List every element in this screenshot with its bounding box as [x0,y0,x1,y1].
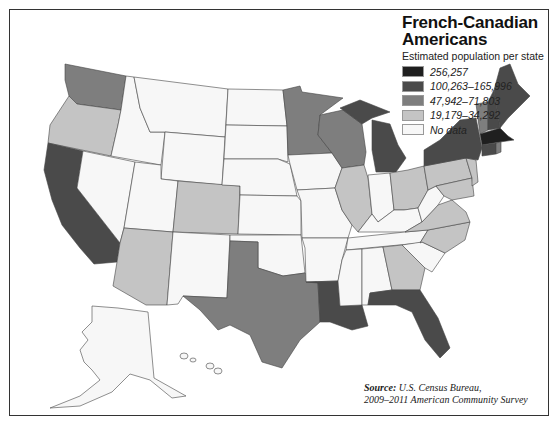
source-line2: 2009–2011 American Community Survey [364,394,528,406]
state-alaska [50,306,186,408]
legend-title-line2: Americans [402,31,552,48]
legend-swatch [402,124,424,135]
legend-label: No data [430,124,467,136]
source-label: Source: [364,382,396,393]
map-legend: French-Canadian Americans Estimated popu… [402,14,552,138]
legend-item: 19,179–34,292 [402,109,552,122]
legend-item: 47,942–71,803 [402,94,552,107]
state-new-mexico [167,232,230,305]
state-michigan [372,120,406,172]
legend-swatch [402,81,424,92]
source-note: Source: U.S. Census Bureau, 2009–2011 Am… [364,382,528,406]
legend-subtitle: Estimated population per state [402,50,552,62]
state-colorado [173,181,240,234]
state-wyoming [161,132,225,185]
legend-swatch [402,110,424,121]
legend-swatch [402,66,424,77]
legend-label: 47,942–71,803 [430,95,500,107]
legend-item: No data [402,123,552,136]
legend-swatch [402,95,424,106]
state-arizona [113,228,173,305]
state-kansas [238,195,301,235]
legend-item: 100,263–165,996 [402,80,552,93]
state-iowa [288,153,342,190]
legend-label: 256,257 [430,66,468,78]
state-south-dakota [224,125,288,162]
state-rhode-island [496,142,501,154]
state-connecticut [482,143,496,156]
state-montana [134,77,228,137]
state-hawaii [180,353,222,374]
legend-title-line1: French-Canadian [402,14,552,31]
legend-label: 100,263–165,996 [430,80,512,92]
source-line1: U.S. Census Bureau, [399,382,482,393]
legend-item: 256,257 [402,65,552,78]
state-florida [368,290,450,358]
legend-label: 19,179–34,292 [430,109,500,121]
state-north-dakota [226,89,287,126]
